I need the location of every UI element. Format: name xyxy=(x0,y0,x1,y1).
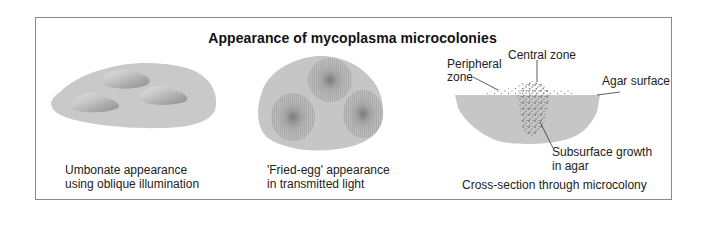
fried-egg-illustration xyxy=(258,56,383,151)
peripheral-zone-leader xyxy=(473,77,498,90)
cross-section-illustration xyxy=(455,60,620,148)
peripheral-zone-label-line2: zone xyxy=(447,70,473,84)
subsurface-growth-label-line2: in agar xyxy=(552,159,589,173)
agar-surface-leader xyxy=(597,92,620,95)
fried-egg-caption-line1: 'Fried-egg' appearance xyxy=(267,163,390,177)
central-zone-label: Central zone xyxy=(508,48,576,62)
umbonate-caption-line1: Umbonate appearance xyxy=(65,163,187,177)
cross-section-caption: Cross-section through microcolony xyxy=(462,178,647,192)
umbonate-illustration xyxy=(51,63,216,128)
peripheral-zone-label-line1: Peripheral xyxy=(447,57,502,71)
fried-egg-caption-line2: in transmitted light xyxy=(267,177,364,191)
subsurface-growth-label-line1: Subsurface growth xyxy=(552,145,652,159)
agar-surface-label: Agar surface xyxy=(602,74,670,88)
umbonate-caption-line2: using oblique illumination xyxy=(65,177,199,191)
